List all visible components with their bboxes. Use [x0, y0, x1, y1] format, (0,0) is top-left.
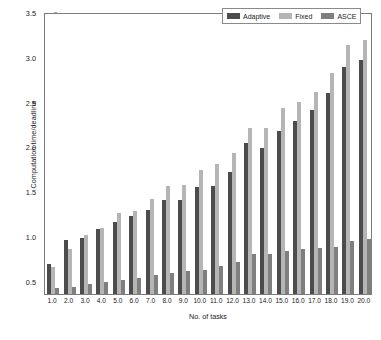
- bar-group: [129, 14, 141, 294]
- x-axis-tick-labels: 1.02.03.04.05.06.07.08.09.010.011.012.01…: [44, 297, 372, 309]
- x-tick-label: 10.0: [193, 297, 206, 304]
- bar-group: [64, 14, 76, 294]
- y-tick-label: 2.5: [26, 98, 36, 107]
- bar-asce-6.0: [137, 278, 141, 294]
- bar-asce-10.0: [203, 270, 207, 294]
- legend-swatch-icon: [321, 13, 334, 19]
- y-tick-label: 3.5: [26, 9, 36, 18]
- bar-group: [244, 14, 256, 294]
- bar-asce-2.0: [72, 287, 76, 294]
- bar-group: [162, 14, 174, 294]
- x-tick-label: 1.0: [48, 297, 57, 304]
- x-tick-label: 20.0: [357, 297, 370, 304]
- bar-group: [113, 14, 125, 294]
- bar-group: [47, 14, 59, 294]
- bar-group: [96, 14, 108, 294]
- legend-label: ASCE: [337, 13, 356, 20]
- x-tick-label: 16.0: [292, 297, 305, 304]
- x-tick-label: 9.0: [179, 297, 188, 304]
- x-tick-label: 7.0: [146, 297, 155, 304]
- bar-group: [326, 14, 338, 294]
- x-tick-label: 18.0: [325, 297, 338, 304]
- x-tick-label: 5.0: [113, 297, 122, 304]
- legend-label: Fixed: [295, 13, 312, 20]
- legend-label: Adaptive: [243, 13, 270, 20]
- x-tick-label: 11.0: [210, 297, 222, 304]
- bar-asce-12.0: [236, 262, 240, 294]
- bar-asce-20.0: [367, 239, 371, 295]
- bar-group: [277, 14, 289, 294]
- y-axis-tick-labels: 0.51.01.52.02.53.03.5: [14, 0, 40, 340]
- bar-groups: [45, 14, 371, 294]
- bar-group: [342, 14, 354, 294]
- plot-area: [44, 13, 372, 295]
- x-tick-label: 15.0: [275, 297, 288, 304]
- bar-asce-3.0: [88, 284, 92, 294]
- bar-group: [260, 14, 272, 294]
- bar-group: [178, 14, 190, 294]
- bar-asce-14.0: [268, 254, 272, 294]
- y-tick-label: 0.5: [26, 277, 36, 286]
- bar-asce-4.0: [104, 282, 108, 294]
- chart-figure: Computation time/deadline 0.51.01.52.02.…: [0, 0, 381, 340]
- bar-group: [228, 14, 240, 294]
- x-tick-label: 3.0: [80, 297, 89, 304]
- bar-asce-8.0: [170, 273, 174, 294]
- x-tick-label: 6.0: [130, 297, 139, 304]
- bar-asce-17.0: [318, 248, 322, 294]
- bar-asce-18.0: [334, 247, 338, 294]
- bar-asce-15.0: [285, 251, 289, 294]
- x-tick-label: 13.0: [243, 297, 256, 304]
- bar-group: [195, 14, 207, 294]
- bar-group: [211, 14, 223, 294]
- y-tick-label: 3.0: [26, 53, 36, 62]
- bar-group: [146, 14, 158, 294]
- x-tick-label: 8.0: [162, 297, 171, 304]
- chart-legend: AdaptiveFixedASCE: [222, 8, 361, 24]
- x-tick-label: 19.0: [341, 297, 354, 304]
- y-tick-label: 1.0: [26, 232, 36, 241]
- bar-group: [293, 14, 305, 294]
- bar-group: [310, 14, 322, 294]
- x-tick-label: 12.0: [226, 297, 239, 304]
- bar-asce-7.0: [154, 275, 158, 294]
- x-tick-label: 14.0: [259, 297, 272, 304]
- bar-group: [359, 14, 371, 294]
- bar-asce-16.0: [301, 249, 305, 294]
- bar-asce-1.0: [55, 288, 59, 294]
- x-axis-title: No. of tasks: [44, 312, 372, 321]
- x-tick-label: 17.0: [308, 297, 321, 304]
- legend-entry-asce: ASCE: [321, 13, 356, 20]
- x-tick-label: 4.0: [97, 297, 106, 304]
- x-tick-label: 2.0: [64, 297, 73, 304]
- bar-asce-9.0: [186, 271, 190, 294]
- legend-swatch-icon: [279, 13, 292, 19]
- y-tick-label: 2.0: [26, 143, 36, 152]
- bar-asce-11.0: [219, 266, 223, 294]
- bar-group: [80, 14, 92, 294]
- y-tick-label: 1.5: [26, 188, 36, 197]
- bar-asce-13.0: [252, 254, 256, 294]
- legend-entry-fixed: Fixed: [279, 13, 312, 20]
- legend-swatch-icon: [227, 13, 240, 19]
- legend-entry-adaptive: Adaptive: [227, 13, 270, 20]
- bar-asce-5.0: [121, 280, 125, 294]
- bar-asce-19.0: [350, 241, 354, 294]
